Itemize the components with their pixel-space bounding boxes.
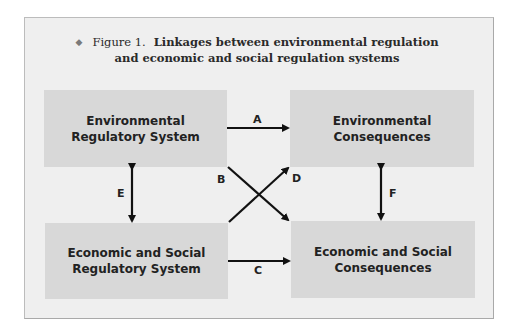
link-label-a: A xyxy=(253,113,262,126)
link-label-e: E xyxy=(117,187,125,200)
link-label-c: C xyxy=(254,264,262,277)
link-label-d: D xyxy=(292,172,301,185)
link-label-f: F xyxy=(389,187,397,200)
link-label-b: B xyxy=(217,173,225,186)
linkage-arrows xyxy=(0,0,514,336)
